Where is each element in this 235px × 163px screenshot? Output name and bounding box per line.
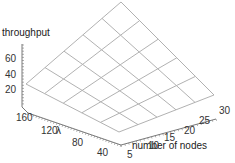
x-tick-5: 5 [127,150,133,160]
z-axis-label: throughput [2,28,50,38]
mesh-line [100,76,195,122]
mesh-line [45,68,138,125]
mesh-line [82,58,177,113]
mesh-line [63,39,158,103]
mesh-line [26,84,119,132]
x-tick-10: 10 [148,141,159,151]
surface-plot [0,0,235,163]
z-tick-40: 40 [5,70,16,80]
x-tick-30: 30 [219,106,230,116]
y-tick-80: 80 [72,138,83,148]
mesh-line [45,21,140,94]
y-tick-40: 40 [97,148,108,158]
x-tick-20: 20 [184,126,195,136]
mesh-line [102,18,195,102]
y-tick-160: 160 [16,113,33,123]
x-tick-25: 25 [199,116,210,126]
z-tick-60: 60 [5,54,16,64]
y-tick-120: 120 [41,126,58,136]
z-tick-20: 20 [5,85,16,95]
surface-wireframe [26,2,214,132]
x-tick-15: 15 [164,133,175,143]
